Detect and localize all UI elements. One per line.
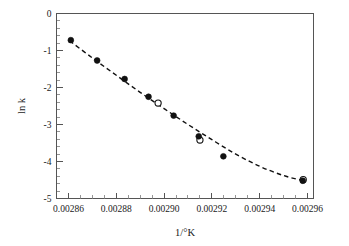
y-tick-label: -1 (44, 46, 52, 56)
data-point-filled (220, 153, 226, 159)
arrhenius-plot-figure: 0-1-2-3-4-5 0.002860.002880.002900.00292… (0, 0, 349, 246)
x-tick-label: 0.00288 (101, 204, 132, 214)
y-tick-label: 0 (47, 9, 52, 19)
x-axis-title: 1/°K (175, 227, 195, 238)
y-axis-title: ln k (16, 97, 27, 114)
y-tick-label: -4 (44, 157, 52, 167)
data-point-filled (300, 178, 306, 184)
x-tick-label: 0.00296 (292, 204, 323, 214)
y-tick-label: -3 (44, 120, 52, 130)
data-point-open (155, 100, 161, 106)
x-tick-label: 0.00292 (196, 204, 227, 214)
chart-canvas: 0-1-2-3-4-5 0.002860.002880.002900.00292… (0, 0, 349, 246)
y-tick-label: -2 (44, 83, 52, 93)
data-point-filled (68, 37, 74, 43)
data-point-filled (171, 113, 177, 119)
data-point-filled (94, 58, 100, 64)
data-point-filled (122, 76, 128, 82)
x-tick-label: 0.00294 (244, 204, 275, 214)
y-tick-label: -5 (44, 194, 52, 204)
data-point-filled (146, 94, 152, 100)
x-tick-label: 0.00290 (149, 204, 180, 214)
data-point-filled (196, 133, 202, 139)
x-tick-label: 0.00286 (53, 204, 84, 214)
